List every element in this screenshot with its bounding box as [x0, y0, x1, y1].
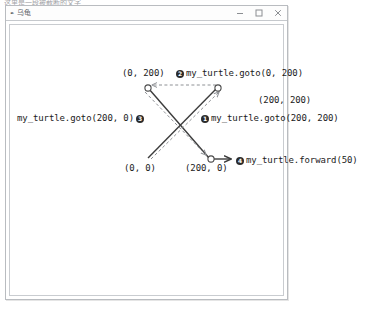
- step-badge-4: 4: [236, 157, 244, 165]
- maximize-icon[interactable]: [249, 6, 268, 20]
- coord-label-200-200: (200, 200): [258, 95, 311, 106]
- window-controls: [230, 6, 287, 20]
- window-title-bar[interactable]: ✒ 乌龟: [6, 6, 287, 21]
- window-title: 乌龟: [17, 9, 31, 17]
- coord-label-200-0: (200, 0): [185, 163, 228, 174]
- step-callout-4: 4 my_turtle.forward(50): [236, 155, 358, 166]
- step-badge-2: 2: [176, 70, 184, 78]
- step-callout-3: my_turtle.goto(200, 0) 3: [17, 113, 144, 124]
- title-bar-left: ✒ 乌龟: [6, 9, 230, 17]
- step-callout-2: 2 my_turtle.goto(0, 200): [176, 68, 303, 79]
- step-command-3: my_turtle.goto(200, 0): [17, 113, 134, 124]
- step-callout-1: 1 my_turtle.goto(200, 200): [201, 113, 339, 124]
- coord-label-0-200: (0, 200): [122, 68, 165, 79]
- minimize-icon[interactable]: [230, 6, 249, 20]
- close-icon[interactable]: [268, 6, 287, 20]
- step-command-4: my_turtle.forward(50): [246, 155, 358, 166]
- step-badge-3: 3: [136, 115, 144, 123]
- step-command-1: my_turtle.goto(200, 200): [211, 113, 339, 124]
- step-badge-1: 1: [201, 115, 209, 123]
- turtle-pen-icon: ✒: [10, 10, 13, 17]
- coord-label-0-0: (0, 0): [124, 163, 156, 174]
- turtle-graphics-window: ✒ 乌龟: [5, 5, 288, 300]
- step-command-2: my_turtle.goto(0, 200): [186, 68, 303, 79]
